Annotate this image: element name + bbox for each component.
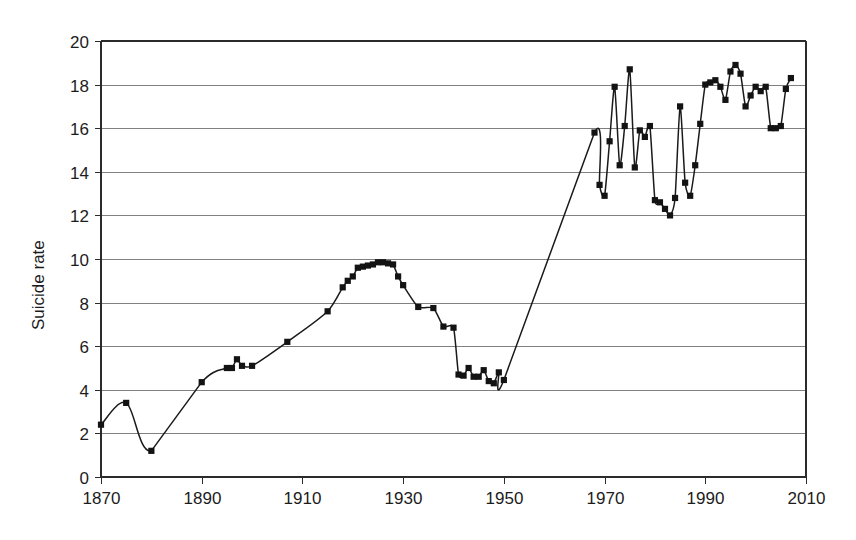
data-point-marker [788, 75, 794, 81]
data-point-marker [234, 356, 240, 362]
data-point-marker [481, 367, 487, 373]
y-tick-label-8: 8 [80, 295, 89, 314]
data-point-marker [350, 273, 356, 279]
data-point-marker [672, 195, 678, 201]
data-point-marker [778, 123, 784, 129]
data-point-marker [415, 304, 421, 310]
figure-caption-partial [40, 527, 600, 540]
y-tick-label-14: 14 [70, 164, 89, 183]
data-point-marker [637, 127, 643, 133]
data-point-marker [647, 123, 653, 129]
data-point-marker [677, 103, 683, 109]
data-point-marker [199, 379, 205, 385]
y-tick-label-6: 6 [80, 338, 89, 357]
y-tick-label-2: 2 [80, 425, 89, 444]
data-point-marker [662, 206, 668, 212]
x-tick-label-1990: 1990 [687, 489, 725, 508]
x-tick-label-1910: 1910 [284, 489, 322, 508]
y-tick-label-0: 0 [80, 469, 89, 488]
data-point-marker [450, 325, 456, 331]
y-tick-label-20: 20 [70, 33, 89, 52]
data-point-marker [722, 97, 728, 103]
data-point-marker [632, 164, 638, 170]
data-point-marker [601, 193, 607, 199]
data-point-marker [284, 339, 290, 345]
y-tick-label-18: 18 [70, 77, 89, 96]
data-point-marker [607, 138, 613, 144]
data-point-marker [148, 448, 154, 454]
chart-background [0, 0, 856, 540]
data-point-marker [737, 71, 743, 77]
data-point-marker [712, 77, 718, 83]
data-point-marker [340, 284, 346, 290]
data-point-marker [692, 162, 698, 168]
data-point-marker [496, 369, 502, 375]
data-point-marker [395, 273, 401, 279]
data-point-marker [727, 68, 733, 74]
x-tick-label-2010: 2010 [788, 489, 826, 508]
y-tick-label-16: 16 [70, 120, 89, 139]
data-point-marker [763, 84, 769, 90]
data-point-marker [732, 62, 738, 68]
data-point-marker [748, 92, 754, 98]
y-tick-label-12: 12 [70, 207, 89, 226]
data-point-marker [229, 365, 235, 371]
y-tick-label-4: 4 [80, 382, 89, 401]
data-point-marker [783, 86, 789, 92]
data-point-marker [591, 129, 597, 135]
suicide-rate-line-chart: 02468101214161820 1870189019101930195019… [0, 0, 856, 540]
data-point-marker [627, 66, 633, 72]
data-point-marker [460, 373, 466, 379]
x-tick-label-1950: 1950 [486, 489, 524, 508]
data-point-marker [466, 365, 472, 371]
data-point-marker [682, 180, 688, 186]
data-point-marker [325, 308, 331, 314]
data-point-marker [98, 422, 104, 428]
data-point-marker [612, 84, 618, 90]
data-point-marker [249, 363, 255, 369]
data-point-marker [239, 363, 245, 369]
data-point-marker [596, 182, 602, 188]
data-point-marker [430, 305, 436, 311]
x-tick-label-1870: 1870 [83, 489, 121, 508]
data-point-marker [400, 282, 406, 288]
data-point-marker [476, 374, 482, 380]
data-point-marker [123, 400, 129, 406]
y-axis-title: Suicide rate [29, 240, 48, 330]
x-tick-label-1970: 1970 [587, 489, 625, 508]
y-tick-label-10: 10 [70, 251, 89, 270]
data-point-marker [697, 121, 703, 127]
data-point-marker [657, 199, 663, 205]
data-point-marker [717, 84, 723, 90]
data-point-marker [390, 261, 396, 267]
data-point-marker [501, 377, 507, 383]
data-point-marker [742, 103, 748, 109]
data-point-marker [667, 212, 673, 218]
x-tick-label-1890: 1890 [184, 489, 222, 508]
data-point-marker [617, 162, 623, 168]
chart-figure: 02468101214161820 1870189019101930195019… [0, 0, 856, 540]
data-point-marker [687, 193, 693, 199]
data-point-marker [491, 380, 497, 386]
data-point-marker [440, 323, 446, 329]
data-point-marker [622, 123, 628, 129]
data-point-marker [642, 134, 648, 140]
x-tick-label-1930: 1930 [385, 489, 423, 508]
